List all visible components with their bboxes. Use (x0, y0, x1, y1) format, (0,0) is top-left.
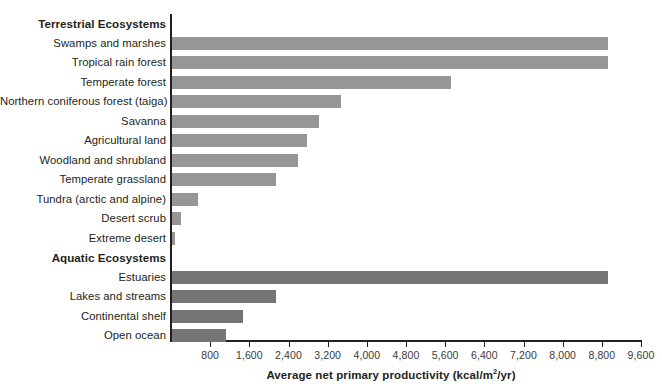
x-tick-mark (210, 342, 211, 347)
x-tick-mark (406, 342, 407, 347)
bar-row: Desert scrub (0, 209, 662, 229)
category-label: Lakes and streams (0, 287, 166, 307)
category-label: Open ocean (0, 326, 166, 346)
category-label: Savanna (0, 112, 166, 132)
category-label: Extreme desert (0, 229, 166, 249)
category-label: Tundra (arctic and alpine) (0, 190, 166, 210)
x-tick-mark (445, 342, 446, 347)
x-tick-label: 2,400 (275, 349, 302, 361)
bar-row: Estuaries (0, 268, 662, 288)
x-tick-label: 1,600 (236, 349, 263, 361)
x-tick-mark (328, 342, 329, 347)
x-tick-label: 4,800 (393, 349, 420, 361)
bar (172, 76, 451, 89)
bar-row: Lakes and streams (0, 287, 662, 307)
x-axis-title-main: Average net primary productivity (kcal/m (266, 369, 493, 381)
x-tick-label: 9,600 (628, 349, 655, 361)
bar (172, 329, 226, 342)
x-tick-mark (367, 342, 368, 347)
bar-row: Northern coniferous forest (taiga) (0, 92, 662, 112)
x-tick-mark (484, 342, 485, 347)
npp-bar-chart: Terrestrial EcosystemsSwamps and marshes… (0, 0, 662, 389)
bar (172, 134, 307, 147)
bar-row: Agricultural land (0, 131, 662, 151)
bar-row: Woodland and shrubland (0, 151, 662, 171)
x-tick-mark (289, 342, 290, 347)
x-tick-label: 5,600 (432, 349, 459, 361)
bar-row: Tundra (arctic and alpine) (0, 190, 662, 210)
x-tick-label: 6,400 (471, 349, 498, 361)
x-axis-title-tail: /yr) (497, 369, 515, 381)
bar (172, 290, 276, 303)
x-tick-mark (602, 342, 603, 347)
bar (172, 232, 175, 245)
bar-row: Swamps and marshes (0, 34, 662, 54)
bar-row: Savanna (0, 112, 662, 132)
category-label: Swamps and marshes (0, 34, 166, 54)
section-header-row: Terrestrial Ecosystems (0, 14, 662, 34)
x-tick-label: 8,800 (588, 349, 615, 361)
x-axis-title: Average net primary productivity (kcal/m… (0, 369, 662, 381)
bar-row: Continental shelf (0, 307, 662, 327)
bar (172, 95, 341, 108)
category-label: Agricultural land (0, 131, 166, 151)
section-header-row: Aquatic Ecosystems (0, 248, 662, 268)
bar (172, 193, 198, 206)
bar (172, 56, 608, 69)
bar (172, 310, 243, 323)
x-tick-label: 3,200 (314, 349, 341, 361)
category-label: Estuaries (0, 268, 166, 288)
bar (172, 212, 181, 225)
x-tick-mark (563, 342, 564, 347)
section-label: Aquatic Ecosystems (0, 248, 166, 268)
x-tick-mark (249, 342, 250, 347)
section-label: Terrestrial Ecosystems (0, 14, 166, 34)
x-tick-mark (641, 342, 642, 347)
category-label: Temperate forest (0, 73, 166, 93)
x-tick-label: 4,000 (353, 349, 380, 361)
x-tick-label: 800 (201, 349, 219, 361)
category-label: Northern coniferous forest (taiga) (0, 92, 166, 112)
x-tick-label: 7,200 (510, 349, 537, 361)
bar (172, 271, 608, 284)
bar-row: Temperate grassland (0, 170, 662, 190)
category-label: Continental shelf (0, 307, 166, 327)
category-label: Tropical rain forest (0, 53, 166, 73)
category-label: Desert scrub (0, 209, 166, 229)
category-label: Woodland and shrubland (0, 151, 166, 171)
bar-row: Temperate forest (0, 73, 662, 93)
category-label: Temperate grassland (0, 170, 166, 190)
bar-row: Extreme desert (0, 229, 662, 249)
bar (172, 173, 276, 186)
bar (172, 37, 608, 50)
bar (172, 115, 319, 128)
bar (172, 154, 298, 167)
bar-row: Tropical rain forest (0, 53, 662, 73)
x-tick-mark (524, 342, 525, 347)
x-tick-label: 8,000 (549, 349, 576, 361)
